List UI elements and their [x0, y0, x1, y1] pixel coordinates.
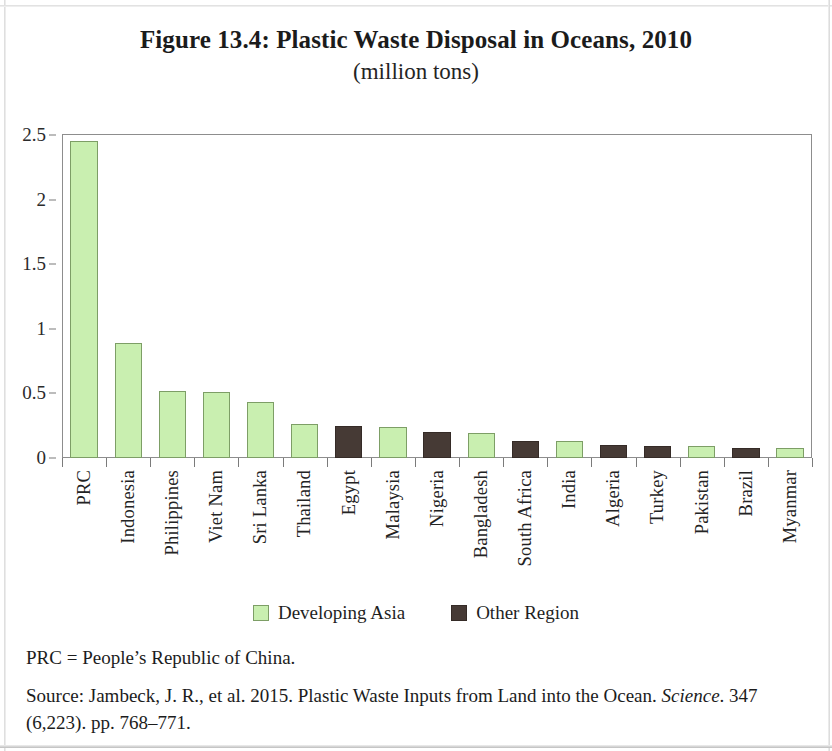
bar-slot [680, 135, 724, 458]
page-edge-right [828, 0, 830, 751]
y-tick-label: 1.5 [22, 253, 46, 275]
x-label-slot: India [547, 470, 591, 580]
x-tick-mark [768, 458, 769, 467]
x-tick-mark [238, 458, 239, 467]
plot-area [62, 134, 812, 458]
x-axis-category-label: PRC [75, 470, 94, 506]
bar [688, 446, 715, 458]
x-axis-labels: PRCIndonesiaPhilippinesViet NamSri Lanka… [62, 470, 812, 580]
legend-swatch-icon [253, 605, 269, 621]
y-tick-label: 2.5 [22, 124, 46, 146]
x-axis-category-label: Indonesia [119, 470, 138, 544]
x-label-slot: Bangladesh [459, 470, 503, 580]
y-tick-label: 1 [37, 318, 47, 340]
x-label-slot: Egypt [327, 470, 371, 580]
page-edge-top [0, 5, 832, 7]
figure-subtitle: (million tons) [0, 58, 832, 86]
x-tick-mark [283, 458, 284, 467]
y-tick-label: 0 [37, 447, 47, 469]
abbreviation-note: PRC = People’s Republic of China. [26, 645, 816, 672]
x-tick-mark [415, 458, 416, 467]
x-axis-category-label: Algeria [604, 470, 623, 527]
bar-slot [106, 135, 150, 458]
x-label-slot: Indonesia [106, 470, 150, 580]
x-label-slot: Philippines [150, 470, 194, 580]
bar [247, 402, 274, 458]
x-tick-mark [812, 458, 813, 467]
x-axis-category-label: Egypt [340, 470, 359, 515]
x-tick-mark [62, 458, 63, 467]
x-tick-mark [194, 458, 195, 467]
legend-swatch-icon [451, 605, 467, 621]
bar [644, 446, 671, 458]
x-axis-category-label: South Africa [516, 470, 535, 566]
page-edge-bottom [0, 745, 832, 748]
x-label-slot: Brazil [724, 470, 768, 580]
legend-label: Developing Asia [278, 602, 405, 624]
bar-slot [547, 135, 591, 458]
bar-slot [283, 135, 327, 458]
x-axis-category-label: Philippines [163, 470, 182, 555]
bar [776, 448, 803, 458]
x-axis-ticks [62, 458, 812, 467]
bar [732, 448, 759, 458]
x-axis-category-label: Viet Nam [207, 470, 226, 543]
x-axis-category-label: Turkey [648, 470, 667, 524]
y-tick-label: 2 [37, 189, 47, 211]
x-tick-mark [459, 458, 460, 467]
x-label-slot: Thailand [283, 470, 327, 580]
bar-slot [724, 135, 768, 458]
bar-slot [592, 135, 636, 458]
x-axis-category-label: Pakistan [693, 470, 712, 534]
x-label-slot: Viet Nam [194, 470, 238, 580]
y-axis: 00.511.522.5 [0, 134, 56, 458]
y-tick-label: 0.5 [22, 382, 46, 404]
x-label-slot: Pakistan [680, 470, 724, 580]
bar-slot [327, 135, 371, 458]
figure-title: Figure 13.4: Plastic Waste Disposal in O… [0, 26, 832, 55]
x-tick-mark [150, 458, 151, 467]
bar [159, 391, 186, 458]
bar [203, 392, 230, 458]
title-block: Figure 13.4: Plastic Waste Disposal in O… [0, 26, 832, 85]
x-tick-mark [636, 458, 637, 467]
bar [423, 432, 450, 458]
x-label-slot: Sri Lanka [239, 470, 283, 580]
figure-page: Figure 13.4: Plastic Waste Disposal in O… [0, 0, 832, 751]
bar-slot [194, 135, 238, 458]
bar-slot [503, 135, 547, 458]
bar [600, 445, 627, 458]
y-tick-mark [49, 328, 56, 329]
x-label-slot: Turkey [636, 470, 680, 580]
bar [291, 424, 318, 458]
bar [512, 441, 539, 458]
x-tick-mark [547, 458, 548, 467]
x-label-slot: Nigeria [415, 470, 459, 580]
figure-notes: PRC = People’s Republic of China. Source… [26, 645, 816, 737]
x-axis-category-label: Thailand [295, 470, 314, 537]
bar-series [62, 135, 812, 458]
x-tick-mark [724, 458, 725, 467]
y-tick-mark [49, 199, 56, 200]
bar-slot [150, 135, 194, 458]
x-tick-mark [106, 458, 107, 467]
bar-slot [415, 135, 459, 458]
x-label-slot: PRC [62, 470, 106, 580]
x-axis-category-label: Bangladesh [472, 470, 491, 558]
y-tick-mark [49, 393, 56, 394]
y-tick-mark [49, 135, 56, 136]
source-note: Source: Jambeck, J. R., et al. 2015. Pla… [26, 683, 816, 737]
bar-slot [459, 135, 503, 458]
x-tick-mark [503, 458, 504, 467]
source-journal: Science [662, 685, 720, 706]
bar-slot [636, 135, 680, 458]
bar [70, 141, 97, 458]
y-tick-mark [49, 264, 56, 265]
x-label-slot: Malaysia [371, 470, 415, 580]
bar-slot [768, 135, 812, 458]
bar [335, 426, 362, 458]
x-axis-category-label: Myanmar [781, 470, 800, 543]
x-axis-category-label: Sri Lanka [251, 470, 270, 544]
x-axis-category-label: Nigeria [428, 470, 447, 527]
legend-item: Developing Asia [253, 602, 405, 624]
